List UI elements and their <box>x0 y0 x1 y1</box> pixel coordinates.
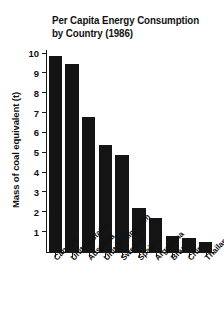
y-tick: 9 <box>42 72 46 73</box>
y-tick-label: 8 <box>34 87 39 98</box>
y-tick: 5 <box>42 152 46 153</box>
y-tick-label: 5 <box>34 147 39 158</box>
y-tick-label: 4 <box>34 167 39 178</box>
bar <box>65 64 78 253</box>
bar-series <box>47 50 214 252</box>
y-tick: 6 <box>42 132 46 133</box>
bar-chart: Per Capita Energy Consumption by Country… <box>0 0 224 323</box>
y-tick: 2 <box>42 211 46 212</box>
y-axis-title: Mass of coal equivalent (t) <box>10 92 21 208</box>
y-tick-label: 2 <box>34 206 39 217</box>
bar <box>49 56 62 252</box>
y-tick: 10 <box>42 53 46 54</box>
y-tick: 4 <box>42 172 46 173</box>
y-tick: 1 <box>42 231 46 232</box>
y-tick-label: 9 <box>34 67 39 78</box>
chart-title: Per Capita Energy Consumption by Country… <box>52 14 210 39</box>
y-tick-label: 6 <box>34 127 39 138</box>
y-tick: 7 <box>42 112 46 113</box>
y-axis-title-container: Mass of coal equivalent (t) <box>6 50 24 250</box>
plot-area: 12345678910 <box>46 50 214 253</box>
x-axis-labels: CanadaUnited StatesAustraliaUnited Kingd… <box>46 254 214 320</box>
y-tick: 8 <box>42 92 46 93</box>
y-tick-label: 1 <box>34 226 39 237</box>
y-tick-label: 3 <box>34 186 39 197</box>
y-tick-label: 10 <box>28 48 39 59</box>
y-tick: 3 <box>42 191 46 192</box>
y-tick-label: 7 <box>34 107 39 118</box>
